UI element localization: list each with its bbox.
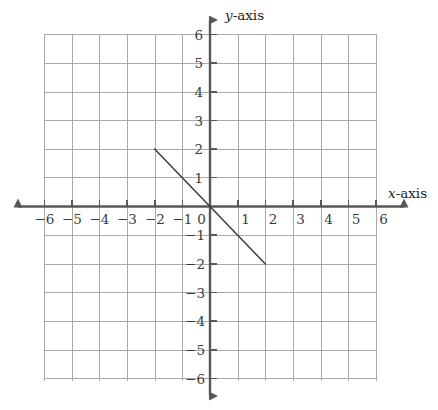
x-tick-label: 6	[379, 211, 388, 227]
y-axis-variable: y	[224, 7, 233, 23]
y-tick-label: −4	[185, 313, 205, 329]
coordinate-plane-graph: −6 −5 −4 −3 −2 −1 0 1 2 3 4 5 6 6 5 4 3 …	[0, 0, 438, 410]
y-tick-label: −5	[185, 342, 205, 358]
x-tick-label: −5	[62, 211, 82, 227]
y-tick-label: −1	[185, 227, 205, 243]
x-tick-label: −1	[173, 211, 193, 227]
x-tick-label: −3	[117, 211, 137, 227]
y-tick-label: 6	[194, 27, 203, 43]
y-tick-label: 2	[194, 141, 203, 157]
y-tick-label: −3	[185, 285, 205, 301]
y-tick-label: 5	[194, 55, 203, 71]
y-axis-label: y-axis	[224, 7, 264, 23]
x-tick-label: −6	[35, 211, 55, 227]
x-axis-label-suffix: -axis	[396, 185, 428, 201]
y-tick-label: −6	[185, 371, 205, 387]
origin-label: 0	[197, 211, 206, 227]
y-tick-label: 3	[194, 113, 203, 129]
y-tick-label: 4	[194, 84, 203, 100]
x-axis-label: x-axis	[388, 185, 427, 201]
graph-canvas: −6 −5 −4 −3 −2 −1 0 1 2 3 4 5 6 6 5 4 3 …	[0, 0, 438, 410]
y-tick-label: 1	[194, 170, 203, 186]
x-tick-label: 3	[296, 211, 305, 227]
x-tick-label: 2	[269, 211, 278, 227]
x-tick-label: −2	[145, 211, 165, 227]
x-tick-label: 5	[352, 211, 361, 227]
x-tick-label: 4	[324, 211, 333, 227]
y-axis-label-suffix: -axis	[233, 7, 265, 23]
x-tick-label: 1	[241, 211, 250, 227]
y-tick-label: −2	[185, 256, 205, 272]
x-tick-label: −4	[90, 211, 110, 227]
